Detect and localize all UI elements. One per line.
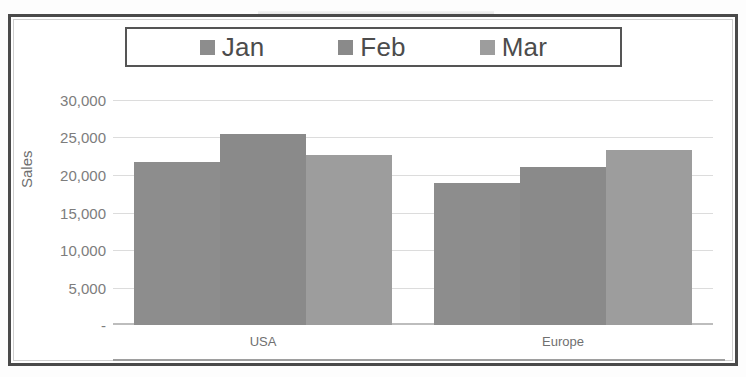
bar-group-usa (134, 100, 392, 325)
bar-group-europe (434, 100, 692, 325)
x-axis-tick-label: USA (250, 334, 277, 349)
y-axis-tick-label: 30,000 (60, 92, 106, 109)
bar-jan-europe[interactable] (434, 183, 520, 326)
legend-swatch-mar-icon (480, 40, 495, 55)
y-axis-tick-label: 10,000 (60, 241, 106, 258)
legend-item-mar[interactable]: Mar (480, 34, 547, 60)
y-axis-tick-label: - (101, 317, 106, 334)
x-axis-rule (113, 359, 725, 361)
y-axis-tick-label: 15,000 (60, 204, 106, 221)
y-axis: -5,00010,00015,00020,00025,00030,000 (32, 100, 110, 325)
y-axis-tick-label: 5,000 (68, 279, 106, 296)
x-axis: USAEurope (113, 334, 713, 358)
y-axis-tick-label: 20,000 (60, 166, 106, 183)
bars-layer (113, 100, 713, 325)
chart-container: Jan Feb Mar Sales -5,00010,00015,00020,0… (0, 0, 746, 377)
bar-jan-usa[interactable] (134, 162, 220, 325)
bar-mar-europe[interactable] (606, 150, 692, 325)
legend-item-jan[interactable]: Jan (200, 34, 265, 60)
y-axis-tick-label: 25,000 (60, 129, 106, 146)
plot-area (113, 100, 713, 325)
bar-feb-usa[interactable] (220, 134, 306, 325)
legend-item-feb[interactable]: Feb (338, 34, 405, 60)
bar-mar-usa[interactable] (306, 155, 392, 325)
legend-label-feb: Feb (360, 34, 405, 60)
legend-label-jan: Jan (222, 34, 265, 60)
legend-swatch-jan-icon (200, 40, 215, 55)
legend-label-mar: Mar (502, 34, 547, 60)
x-axis-tick-label: Europe (542, 334, 584, 349)
bar-feb-europe[interactable] (520, 167, 606, 325)
legend-swatch-feb-icon (338, 40, 353, 55)
chart-legend[interactable]: Jan Feb Mar (125, 27, 622, 67)
